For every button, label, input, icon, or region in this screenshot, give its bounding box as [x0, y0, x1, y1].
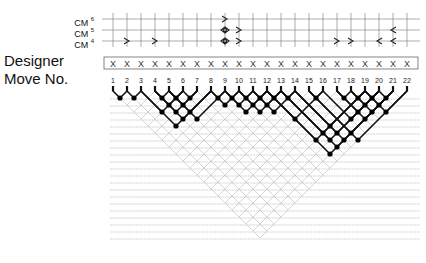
- move-number: 22: [403, 77, 411, 84]
- merge-node: [327, 123, 332, 128]
- designer-mark: X: [390, 59, 396, 69]
- designer-mark: X: [306, 59, 312, 69]
- move-number: 8: [209, 77, 213, 84]
- move-number: 4: [153, 77, 157, 84]
- move-number: 18: [347, 77, 355, 84]
- move-number: 15: [305, 77, 313, 84]
- merge-path: [141, 91, 176, 126]
- merge-node: [355, 109, 360, 114]
- merge-path: [267, 91, 330, 154]
- designer-mark: X: [208, 59, 214, 69]
- move-number: 9: [223, 77, 227, 84]
- move-diagram: XXXXXXXXXXXXXXXXXXXXXX123456789101112131…: [0, 0, 426, 263]
- merge-node: [362, 102, 367, 107]
- merge-node: [264, 102, 269, 107]
- merge-node: [194, 116, 199, 121]
- merge-node: [215, 95, 220, 100]
- move-number: 12: [263, 77, 271, 84]
- merge-node: [271, 109, 276, 114]
- move-number: 11: [249, 77, 256, 84]
- merge-node: [341, 95, 346, 100]
- merge-node: [159, 109, 164, 114]
- designer-mark: X: [180, 59, 186, 69]
- merge-node: [320, 130, 325, 135]
- merge-node: [348, 116, 353, 121]
- move-number: 14: [291, 77, 299, 84]
- merge-node: [355, 137, 360, 142]
- merge-node: [383, 95, 388, 100]
- merge-node: [369, 95, 374, 100]
- merge-node: [383, 109, 388, 114]
- designer-mark: X: [236, 59, 242, 69]
- merge-node: [334, 130, 339, 135]
- merge-node: [327, 151, 332, 156]
- designer-mark: X: [110, 59, 116, 69]
- designer-mark: X: [124, 59, 130, 69]
- designer-mark: X: [278, 59, 284, 69]
- move-number: 2: [125, 77, 129, 84]
- merge-node: [369, 109, 374, 114]
- merge-node: [334, 144, 339, 149]
- merge-node: [159, 95, 164, 100]
- merge-node: [271, 95, 276, 100]
- designer-mark: X: [222, 59, 228, 69]
- merge-node: [327, 137, 332, 142]
- move-number: 21: [389, 77, 397, 84]
- merge-node: [187, 95, 192, 100]
- merge-node: [376, 102, 381, 107]
- merge-node: [173, 109, 178, 114]
- merge-node: [222, 102, 227, 107]
- merge-node: [243, 95, 248, 100]
- move-number: 13: [277, 77, 285, 84]
- merge-node: [355, 95, 360, 100]
- move-number: 17: [333, 77, 341, 84]
- merge-node: [166, 102, 171, 107]
- designer-mark: X: [194, 59, 200, 69]
- merge-node: [313, 95, 318, 100]
- designer-mark: X: [264, 59, 270, 69]
- merge-node: [257, 109, 262, 114]
- merge-node: [131, 95, 136, 100]
- move-number: 6: [181, 77, 185, 84]
- move-number: 3: [139, 77, 143, 84]
- merge-node: [173, 123, 178, 128]
- merge-node: [180, 116, 185, 121]
- merge-node: [243, 109, 248, 114]
- merge-node: [313, 137, 318, 142]
- designer-mark: X: [250, 59, 256, 69]
- merge-path: [358, 91, 407, 140]
- designer-mark: X: [362, 59, 368, 69]
- move-number: 10: [235, 77, 243, 84]
- merge-node: [285, 95, 290, 100]
- lattice-line: [197, 91, 302, 196]
- designer-mark: X: [292, 59, 298, 69]
- merge-node: [292, 116, 297, 121]
- move-number: 19: [361, 77, 369, 84]
- designer-mark: X: [152, 59, 158, 69]
- move-number: 5: [167, 77, 171, 84]
- merge-node: [348, 130, 353, 135]
- move-number: 7: [195, 77, 199, 84]
- lattice-line: [393, 91, 400, 98]
- move-number: 20: [375, 77, 383, 84]
- merge-node: [250, 102, 255, 107]
- designer-mark: X: [138, 59, 144, 69]
- merge-node: [229, 95, 234, 100]
- merge-node: [117, 95, 122, 100]
- designer-mark: X: [376, 59, 382, 69]
- merge-node: [257, 95, 262, 100]
- move-number: 1: [111, 77, 115, 84]
- designer-mark: X: [348, 59, 354, 69]
- merge-node: [341, 137, 346, 142]
- merge-node: [236, 102, 241, 107]
- move-number: 16: [319, 77, 327, 84]
- merge-node: [187, 109, 192, 114]
- merge-node: [362, 116, 367, 121]
- designer-mark: X: [320, 59, 326, 69]
- merge-node: [180, 102, 185, 107]
- designer-mark: X: [334, 59, 340, 69]
- designer-mark: X: [404, 59, 410, 69]
- merge-node: [173, 95, 178, 100]
- designer-mark: X: [166, 59, 172, 69]
